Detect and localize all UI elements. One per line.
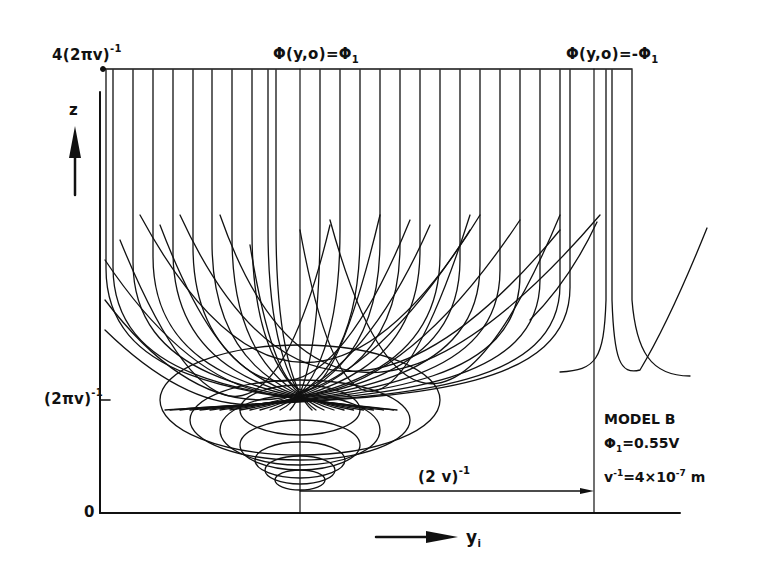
y-tick-top: 4(2πv)-1 bbox=[52, 45, 122, 64]
trajectory-curve bbox=[560, 70, 606, 372]
top-left-dot bbox=[101, 67, 106, 72]
z-axis-label: z bbox=[69, 101, 78, 119]
v-inv-value-exp: -7 bbox=[676, 468, 686, 478]
trajectory-curve bbox=[200, 70, 500, 410]
v-inv-exp: -1 bbox=[613, 468, 623, 478]
model-label: MODEL B bbox=[604, 407, 705, 431]
y-tick-mid-base: (2πv) bbox=[44, 390, 91, 408]
top-left-boundary-sub: 1 bbox=[352, 54, 359, 65]
top-right-boundary-sub: 1 bbox=[651, 54, 658, 65]
top-right-boundary-label: Φ(y,o)=-Φ1 bbox=[566, 45, 659, 65]
yi-sub: i bbox=[477, 538, 481, 549]
v-inv-base: v bbox=[604, 468, 613, 484]
trajectory-curve bbox=[170, 70, 560, 410]
trajectory-curve bbox=[612, 70, 707, 371]
span-label-exp: -1 bbox=[459, 465, 471, 476]
trajectory-curve bbox=[113, 70, 394, 410]
span-label: (2 v)-1 bbox=[418, 467, 470, 486]
phi1-param: Φ1=0.55V bbox=[604, 431, 705, 461]
trajectory-curve bbox=[105, 220, 520, 396]
top-right-boundary-base: Φ(y,o)=-Φ bbox=[566, 45, 651, 63]
v-inv-value: =4×10 bbox=[623, 468, 676, 484]
yi-arrow-head bbox=[426, 531, 458, 543]
model-parameters: MODEL B Φ1=0.55V v-1=4×10-7 m bbox=[604, 407, 705, 488]
trajectory-curve bbox=[250, 70, 400, 410]
span-label-base: (2 v) bbox=[418, 468, 459, 486]
v-inv-param: v-1=4×10-7 m bbox=[604, 461, 705, 489]
trajectory-curve bbox=[120, 225, 330, 396]
y-tick-zero: 0 bbox=[84, 503, 95, 521]
y-tick-top-base: 4(2πv) bbox=[52, 46, 110, 64]
trajectory-curve bbox=[632, 70, 690, 376]
span-arrow-head bbox=[580, 488, 594, 494]
phi1-symbol: Φ bbox=[604, 435, 616, 451]
y-tick-zero-base: 0 bbox=[84, 503, 95, 521]
trajectory-curve bbox=[330, 215, 560, 384]
yi-base: y bbox=[466, 527, 477, 547]
v-inv-unit: m bbox=[686, 468, 705, 484]
y-tick-mid-exp: -1 bbox=[91, 387, 103, 398]
top-left-boundary-base: Φ(y,o)=Φ bbox=[273, 45, 352, 63]
trajectory-figure bbox=[0, 0, 782, 576]
trajectory-curve bbox=[290, 70, 320, 410]
trajectory-curve bbox=[220, 215, 600, 373]
yi-axis-label: yi bbox=[466, 527, 481, 549]
top-left-boundary-label: Φ(y,o)=Φ1 bbox=[273, 45, 359, 65]
z-arrow-head bbox=[69, 126, 81, 158]
phi1-value: =0.55V bbox=[622, 435, 679, 451]
trajectory-curve bbox=[190, 70, 520, 410]
trajectory-curve bbox=[165, 70, 570, 410]
y-tick-top-exp: -1 bbox=[110, 43, 122, 54]
y-tick-mid: (2πv)-1 bbox=[44, 389, 103, 408]
